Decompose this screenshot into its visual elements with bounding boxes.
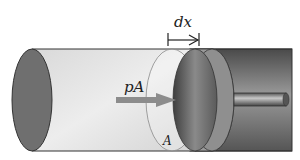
- area-label: A: [162, 134, 172, 148]
- piston-rod-end: [283, 93, 289, 106]
- cylinder-end-cap: [12, 49, 52, 151]
- piston-cylinder-diagram: dx pA A: [0, 0, 300, 160]
- diagram-canvas: dx pA A: [0, 0, 300, 160]
- piston-rod: [234, 93, 286, 106]
- force-label: pA: [124, 78, 145, 96]
- force-arrow-shaft: [116, 97, 158, 103]
- dx-label: dx: [174, 13, 193, 31]
- piston-face: [173, 49, 217, 151]
